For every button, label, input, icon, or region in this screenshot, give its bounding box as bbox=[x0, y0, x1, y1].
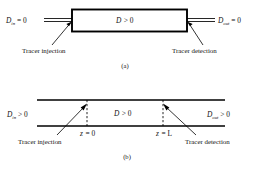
panel-a-outlet-label: Dout= 0 bbox=[217, 16, 241, 26]
figure-root: Din= 0 Dout= 0 D> 0 Tracer injection bbox=[0, 0, 259, 170]
panel-a-caption: (a) bbox=[121, 62, 128, 70]
panel-b-inlet-label: Din> 0 bbox=[6, 110, 28, 120]
panel-b-vessel-label: D> 0 bbox=[113, 109, 132, 118]
panel-b-injection-label: Tracer injection bbox=[18, 138, 62, 145]
panel-a-detection-pointer bbox=[187, 22, 203, 46]
panel-a-outlet-pipe bbox=[187, 19, 215, 22]
panel-b: Din> 0 D> 0 Dout> 0 z= 0 bbox=[6, 100, 230, 161]
panel-a-inlet-label: Din= 0 bbox=[5, 16, 27, 26]
panel-a: Din= 0 Dout= 0 D> 0 Tracer injection bbox=[5, 10, 241, 71]
panel-a-injection-label: Tracer injection bbox=[22, 47, 66, 54]
panel-b-position-start-label: z= 0 bbox=[79, 129, 95, 138]
panel-b-position-end-label: z= L bbox=[155, 129, 172, 138]
panel-b-caption: (b) bbox=[123, 153, 131, 161]
panel-a-detection-label: Tracer detection bbox=[172, 47, 217, 54]
panel-b-detection-label: Tracer detection bbox=[185, 138, 230, 145]
panel-a-injection-pointer bbox=[52, 22, 72, 46]
panel-b-outlet-label: Dout> 0 bbox=[206, 110, 230, 120]
dispersion-figure: Din= 0 Dout= 0 D> 0 Tracer injection bbox=[0, 0, 259, 170]
panel-a-inlet-pipe bbox=[44, 19, 72, 22]
panel-a-vessel-label: D> 0 bbox=[115, 16, 134, 25]
